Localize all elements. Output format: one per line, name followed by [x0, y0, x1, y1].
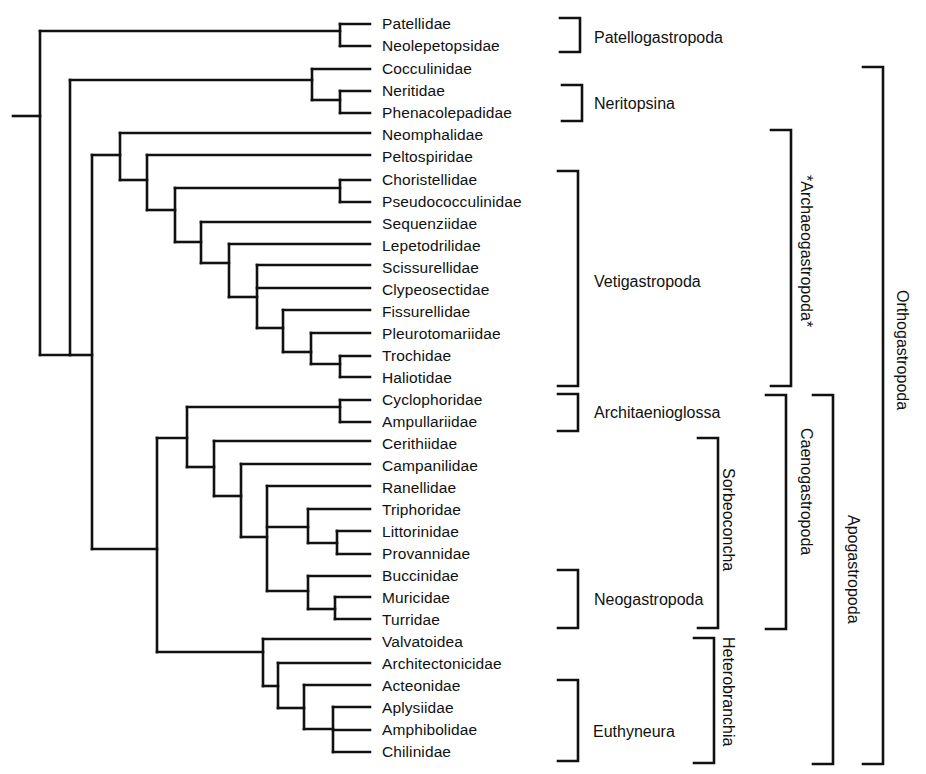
taxon-label: Clypeosectidae: [382, 281, 489, 299]
clade-bracket: [558, 171, 578, 386]
clade-label-vertical: Apogastropoda: [844, 515, 862, 624]
clade-label: Neogastropoda: [594, 591, 703, 609]
clade-label-vertical: Orthogastropoda: [893, 290, 911, 410]
taxon-label: Cyclophoridae: [382, 391, 482, 409]
taxon-label: Cerithiidae: [382, 435, 457, 453]
clade-bracket: [558, 394, 578, 431]
clade-bracket: [560, 18, 580, 52]
taxon-label: Neolepetopsidae: [382, 37, 500, 55]
clade-bracket: [766, 395, 786, 629]
clade-label: Euthyneura: [593, 723, 675, 741]
clade-label: Architaenioglossa: [594, 404, 720, 422]
clade-bracket: [694, 638, 714, 763]
taxon-label: Triphoridae: [382, 501, 461, 519]
taxon-label: Turridae: [382, 611, 440, 629]
clade-label-vertical: Caenogastropoda: [797, 428, 815, 555]
clade-label: Neritopsina: [594, 95, 675, 113]
clade-bracket: [863, 67, 883, 764]
tree-branches: [13, 24, 370, 752]
clade-bracket: [562, 85, 582, 121]
taxon-label: Lepetodrilidae: [382, 237, 481, 255]
taxon-label: Fissurellidae: [382, 303, 470, 321]
taxon-label: Scissurellidae: [382, 259, 479, 277]
taxon-label: Muricidae: [382, 589, 450, 607]
taxon-label: Provannidae: [382, 545, 470, 563]
taxon-label: Pleurotomariidae: [382, 325, 501, 343]
taxon-label: Peltospiridae: [382, 148, 473, 166]
clade-label-vertical: *Archaeogastropoda*: [797, 175, 815, 327]
taxon-label: Neomphalidae: [382, 126, 483, 144]
taxon-label: Aplysiidae: [382, 699, 454, 717]
taxon-label: Littorinidae: [382, 523, 459, 541]
taxon-label: Choristellidae: [382, 171, 477, 189]
taxon-label: Cocculinidae: [382, 60, 472, 78]
taxon-label: Haliotidae: [382, 369, 452, 387]
taxon-label: Acteonidae: [382, 677, 461, 695]
clade-bracket: [558, 680, 578, 761]
clade-bracket: [813, 395, 833, 764]
clade-label-vertical: Sorbeoconcha: [719, 468, 737, 571]
taxon-label: Chilinidae: [382, 743, 451, 761]
taxon-label: Amphibolidae: [382, 721, 477, 739]
taxon-label: Architectonicidae: [382, 655, 502, 673]
taxon-label: Patellidae: [382, 15, 451, 33]
taxon-label: Campanilidae: [382, 457, 478, 475]
clade-bracket: [771, 130, 791, 386]
taxon-label: Valvatoidea: [382, 633, 463, 651]
taxon-label: Ampullariidae: [382, 413, 477, 431]
clade-label-vertical: Heterobranchia: [719, 637, 737, 746]
taxon-label: Pseudococculinidae: [382, 193, 522, 211]
taxon-label: Sequenziidae: [382, 215, 477, 233]
taxon-label: Phenacolepadidae: [382, 104, 512, 122]
taxon-label: Neritidae: [382, 82, 445, 100]
clade-label: Vetigastropoda: [594, 273, 701, 291]
clade-label: Patellogastropoda: [594, 29, 723, 47]
taxon-label: Ranellidae: [382, 479, 456, 497]
taxon-label: Buccinidae: [382, 567, 459, 585]
taxon-label: Trochidae: [382, 347, 451, 365]
clade-bracket: [558, 570, 578, 628]
